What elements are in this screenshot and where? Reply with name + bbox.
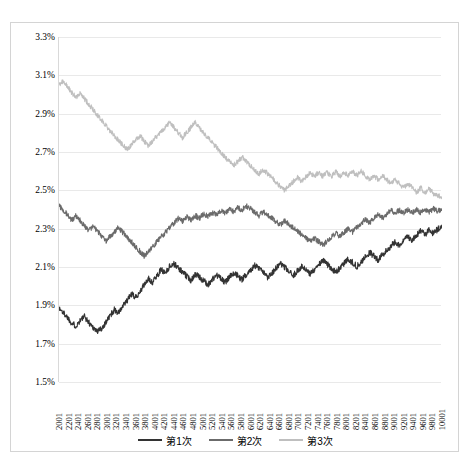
x-tick-label: 8401 — [360, 413, 370, 430]
x-tick-label: 4201 — [159, 413, 169, 430]
x-tick-label: 6201 — [255, 413, 265, 430]
series-line — [59, 225, 442, 333]
x-tick-label: 9801 — [427, 413, 437, 430]
legend-item[interactable]: 第2次 — [209, 433, 263, 448]
x-tick-label: 5601 — [226, 413, 236, 430]
chart-legend: 第1次第2次第3次 — [11, 431, 460, 449]
series-line — [59, 80, 442, 199]
legend-swatch — [209, 439, 233, 441]
legend-label: 第3次 — [307, 433, 333, 448]
x-tick-label: 2401 — [73, 413, 83, 430]
y-tick-label: 1.7% — [11, 339, 55, 349]
y-tick-label: 3.1% — [11, 70, 55, 80]
x-tick-label: 2001 — [54, 413, 64, 430]
x-tick-label: 7601 — [322, 413, 332, 430]
y-tick-label: 2.1% — [11, 262, 55, 272]
gridline — [59, 382, 441, 383]
x-tick-label: 3801 — [140, 413, 150, 430]
x-tick-label: 10001 — [437, 409, 447, 430]
x-tick-label: 4601 — [178, 413, 188, 430]
y-tick-label: 2.3% — [11, 224, 55, 234]
x-tick-label: 7001 — [293, 413, 303, 430]
x-tick-label: 9401 — [408, 413, 418, 430]
chart-container: 3.3%3.1%2.9%2.7%2.5%2.3%2.1%1.9%1.7%1.5%… — [10, 22, 459, 452]
plot-wrapper: 3.3%3.1%2.9%2.7%2.5%2.3%2.1%1.9%1.7%1.5%… — [11, 23, 460, 453]
series-lines — [59, 37, 442, 382]
y-axis-labels: 3.3%3.1%2.9%2.7%2.5%2.3%2.1%1.9%1.7%1.5% — [11, 37, 55, 382]
y-tick-label: 2.9% — [11, 109, 55, 119]
x-tick-label: 5801 — [236, 413, 246, 430]
x-tick-label: 2801 — [92, 413, 102, 430]
x-tick-label: 8001 — [341, 413, 351, 430]
legend-item[interactable]: 第1次 — [138, 433, 192, 448]
y-tick-label: 3.3% — [11, 32, 55, 42]
x-tick-label: 7201 — [303, 413, 313, 430]
series-line — [59, 204, 442, 259]
x-tick-label: 6601 — [274, 413, 284, 430]
y-tick-label: 1.5% — [11, 377, 55, 387]
plot-area — [58, 37, 441, 382]
y-tick-label: 1.9% — [11, 300, 55, 310]
legend-swatch — [138, 439, 162, 441]
x-tick-label: 3201 — [111, 413, 121, 430]
x-tick-label: 8601 — [370, 413, 380, 430]
x-tick-label: 9001 — [389, 413, 399, 430]
legend-label: 第2次 — [237, 433, 263, 448]
y-tick-label: 2.7% — [11, 147, 55, 157]
x-tick-label: 3401 — [121, 413, 131, 430]
y-tick-label: 2.5% — [11, 185, 55, 195]
legend-label: 第1次 — [166, 433, 192, 448]
x-tick-label: 5201 — [207, 413, 217, 430]
x-tick-label: 4801 — [188, 413, 198, 430]
x-axis-labels: 2001220124012601280130013201340136013801… — [58, 384, 441, 430]
legend-swatch — [279, 439, 303, 441]
legend-item[interactable]: 第3次 — [279, 433, 333, 448]
x-tick-label: 6001 — [246, 413, 256, 430]
